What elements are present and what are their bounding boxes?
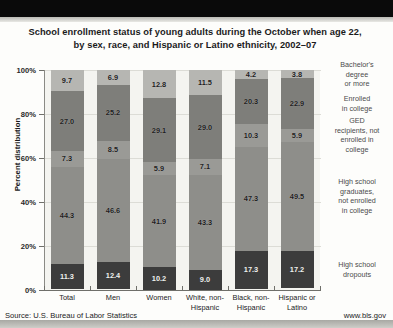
bar-segment-value: 3.8 [292,70,302,79]
bar-segment[interactable]: 25.2 [97,85,130,140]
bar-segment[interactable]: 27.0 [51,91,84,150]
bar-segment-value: 5.9 [154,164,164,173]
bar-segment[interactable]: 10.2 [143,267,176,289]
stacked-bar[interactable]: 6.925.28.546.612.4 [97,70,130,290]
stacked-bar[interactable]: 4.220.310.347.317.3 [235,70,268,290]
bar-segment[interactable]: 20.3 [235,79,268,124]
y-tick-mark [39,246,44,247]
bar-segment[interactable]: 9.7 [51,70,84,91]
bar-segment[interactable]: 3.8 [281,70,314,78]
top-black-band [0,0,393,17]
bar-segment[interactable]: 17.3 [235,251,268,289]
bar-segment[interactable]: 9.0 [189,270,222,290]
y-tick-label: 80% [2,110,36,119]
bar-segment-value: 7.1 [200,162,210,171]
bar-segment-value: 10.2 [152,274,166,283]
x-tick-mark [90,286,91,291]
bar-segment[interactable]: 46.6 [97,159,130,262]
bar-segment-value: 5.9 [292,131,302,140]
bar-segment-value: 6.9 [108,73,118,82]
bar-segment[interactable]: 49.5 [281,142,314,251]
title-line-2: by sex, race, and Hispanic or Latino eth… [14,39,376,52]
bar-segment-value: 12.8 [152,80,166,89]
bar-segment[interactable]: 29.0 [189,95,222,159]
top-band-shadow [0,17,393,22]
y-tick-mark [39,158,44,159]
bar-segment[interactable]: 8.5 [97,141,130,160]
bar-segment[interactable]: 17.2 [281,251,314,289]
bar-segment[interactable]: 43.3 [189,175,222,270]
plot-area [44,70,320,290]
legend-item[interactable]: Enrolledin college [324,94,390,113]
bar-segment-value: 44.3 [60,211,74,220]
legend-item-line: Bachelor's [324,60,390,69]
bar-segment[interactable]: 10.3 [235,124,268,147]
bar-segment-value: 43.3 [198,218,212,227]
bar-segment-value: 8.5 [108,145,118,154]
bar-segment-value: 49.5 [290,192,304,201]
y-tick-mark [39,114,44,115]
bar-segment[interactable]: 4.2 [235,70,268,79]
bar-segment-value: 10.3 [244,131,258,140]
website-url: www.bls.gov [344,311,386,320]
bar-segment[interactable]: 7.3 [51,151,84,167]
bar-segment[interactable]: 29.1 [143,98,176,162]
x-category-line: Latino [266,303,328,313]
legend-item[interactable]: High schooldropouts [324,260,390,279]
x-tick-mark [182,286,183,291]
bar-segment-value: 47.3 [244,194,258,203]
y-tick-mark [39,202,44,203]
legend-item-line: or more [324,79,390,88]
bar-segment-value: 46.6 [106,206,120,215]
stacked-bar[interactable]: 12.829.15.941.910.2 [143,70,176,290]
y-tick-label: 0% [2,286,36,295]
bar-segment-value: 20.3 [244,97,258,106]
bar-segment[interactable]: 12.8 [143,70,176,98]
bar-segment-value: 9.7 [62,76,72,85]
x-tick-mark [274,286,275,291]
bar-segment[interactable]: 22.9 [281,78,314,128]
legend-item-line: enrolled in [324,135,390,144]
bottom-gray-band [0,320,393,328]
legend-item[interactable]: Bachelor'sdegreeor more [324,60,390,88]
x-category-label: Hispanic orLatino [266,293,328,312]
legend-item-line: college [324,145,390,154]
bar-segment[interactable]: 11.3 [51,264,84,289]
stacked-bar[interactable]: 9.727.07.344.311.3 [51,70,84,290]
legend-item-line: not enrolled [324,196,390,205]
bar-segment[interactable]: 41.9 [143,175,176,267]
bar-segment[interactable]: 47.3 [235,147,268,251]
title-line-1: School enrollment status of young adults… [14,26,376,39]
x-category-line: Hispanic or [266,293,328,303]
legend-item[interactable]: High schoolgraduates,not enrolledin coll… [324,177,390,215]
bar-segment[interactable]: 5.9 [143,162,176,175]
legend-item[interactable]: GEDrecipients, notenrolled incollege [324,116,390,154]
y-tick-label: 100% [2,66,36,75]
bar-segment[interactable]: 11.5 [189,70,222,95]
bar-segment-value: 7.3 [62,154,72,163]
stacked-bar[interactable]: 3.822.95.949.517.2 [281,70,314,290]
legend-item-line: dropouts [324,270,390,279]
bar-segment[interactable]: 44.3 [51,167,84,264]
legend-item-line: High school [324,260,390,269]
source-note: Source: U.S. Bureau of Labor Statistics [5,311,137,320]
legend-item-line: in college [324,206,390,215]
bar-segment-value: 9.0 [200,275,210,284]
page-title: School enrollment status of young adults… [14,26,376,52]
legend-item-line: degree [324,70,390,79]
bar-segment[interactable]: 5.9 [281,129,314,142]
bar-segment-value: 11.3 [60,272,74,281]
legend-item-line: graduates, [324,187,390,196]
bar-segment-value: 12.4 [106,271,120,280]
bar-segment[interactable]: 12.4 [97,262,130,289]
y-tick-mark [39,70,44,71]
stacked-bar[interactable]: 11.529.07.143.39.0 [189,70,222,290]
legend-item-line: GED [324,116,390,125]
bar-segment-value: 29.1 [152,126,166,135]
legend-item-line: recipients, not [324,126,390,135]
bar-segment-value: 29.0 [198,123,212,132]
bar-segment[interactable]: 7.1 [189,159,222,175]
legend-item-line: in college [324,104,390,113]
bar-segment[interactable]: 6.9 [97,70,130,85]
y-tick-label: 40% [2,198,36,207]
